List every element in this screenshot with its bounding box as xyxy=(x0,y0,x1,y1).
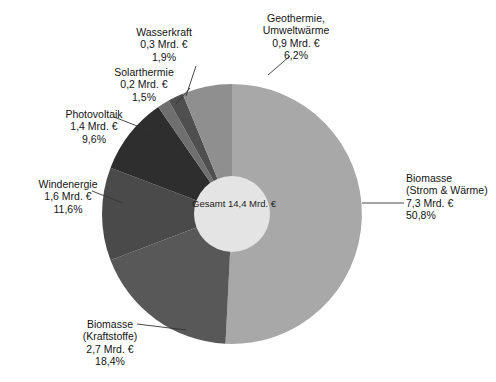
callout-title-line1: Photovoltaik xyxy=(36,108,152,120)
center-label-title: Gesamt xyxy=(192,198,225,209)
callout-windenergie: Windenergie 1,6 Mrd. € 11,6% xyxy=(10,178,126,215)
callout-title-line1: Biomasse xyxy=(52,318,168,330)
callout-geothermie-umweltwaerme: Geothermie, Umweltwärme 0,9 Mrd. € 6,2% xyxy=(228,12,364,62)
callout-value: 1,4 Mrd. € xyxy=(36,120,152,132)
callout-percent: 50,8% xyxy=(406,209,496,221)
callout-value: 1,6 Mrd. € xyxy=(10,190,126,202)
callout-percent: 18,4% xyxy=(52,355,168,367)
callout-wasserkraft: Wasserkraft 0,3 Mrd. € 1,9% xyxy=(104,26,224,63)
callout-biomasse-strom-waerme: Biomasse (Strom & Wärme) 7,3 Mrd. € 50,8… xyxy=(406,172,496,222)
callout-percent: 9,6% xyxy=(36,133,152,145)
callout-value: 7,3 Mrd. € xyxy=(406,197,496,209)
donut-center-label: Gesamt 14,4 Mrd. € xyxy=(186,198,282,210)
callout-title-line1: Windenergie xyxy=(10,178,126,190)
callout-title-line1: Biomasse xyxy=(406,172,496,184)
callout-title-line1: Geothermie, xyxy=(228,12,364,24)
callout-percent: 1,9% xyxy=(104,51,224,63)
callout-title-line1: Wasserkraft xyxy=(104,26,224,38)
callout-title-line2: (Strom & Wärme) xyxy=(406,184,496,196)
callout-value: 0,9 Mrd. € xyxy=(228,37,364,49)
callout-value: 2,7 Mrd. € xyxy=(52,343,168,355)
callout-solarthermie: Solarthermie 0,2 Mrd. € 1,5% xyxy=(84,66,204,103)
callout-photovoltaik: Photovoltaik 1,4 Mrd. € 9,6% xyxy=(36,108,152,145)
callout-biomasse-kraftstoffe: Biomasse (Kraftstoffe) 2,7 Mrd. € 18,4% xyxy=(52,318,168,368)
callout-percent: 6,2% xyxy=(228,49,364,61)
callout-title-line2: (Kraftstoffe) xyxy=(52,330,168,342)
callout-percent: 1,5% xyxy=(84,91,204,103)
pie-chart: Geothermie, Umweltwärme 0,9 Mrd. € 6,2% … xyxy=(0,0,496,382)
callout-value: 0,3 Mrd. € xyxy=(104,38,224,50)
donut-hole xyxy=(194,176,270,252)
callout-title-line2: Umweltwärme xyxy=(228,24,364,36)
callout-value: 0,2 Mrd. € xyxy=(84,78,204,90)
center-label-value: 14,4 Mrd. € xyxy=(228,198,276,209)
callout-percent: 11,6% xyxy=(10,203,126,215)
callout-title-line1: Solarthermie xyxy=(84,66,204,78)
